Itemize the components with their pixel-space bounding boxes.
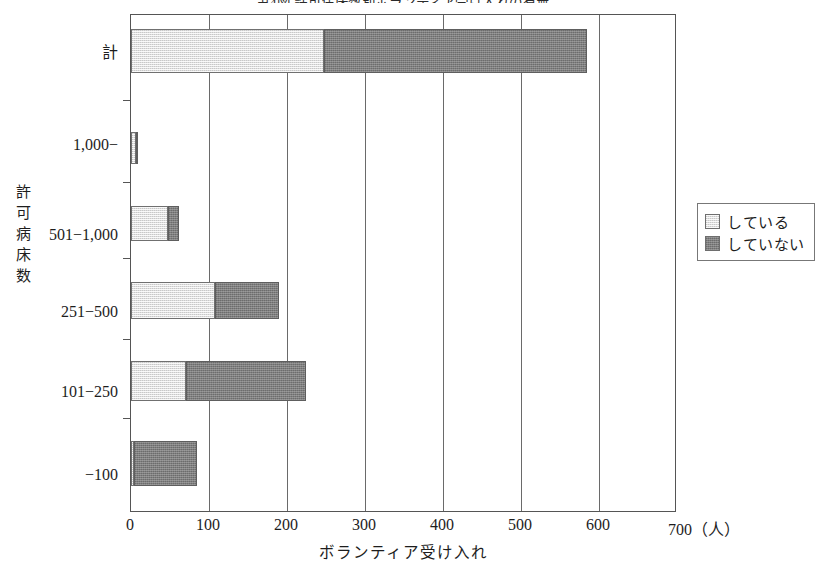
- gridline-500: [521, 15, 522, 511]
- x-axis-unit: 700（人）: [668, 516, 740, 540]
- bar-segment-shiteinai: [136, 132, 138, 164]
- gridline-300: [365, 15, 366, 511]
- y-axis-label: 1,000−: [0, 136, 124, 154]
- y-axis-label: −100: [0, 466, 124, 484]
- legend-item: していない: [705, 232, 805, 254]
- x-axis-tick-label: 300: [352, 516, 376, 534]
- bar-segment-shiteiru: [131, 206, 168, 241]
- bar-row: [131, 206, 677, 241]
- y-axis-label: 251−500: [0, 303, 124, 321]
- bar-row: [131, 361, 677, 401]
- bar-row: [131, 282, 677, 319]
- legend: しているしていない: [697, 203, 815, 261]
- x-axis-tick-label: 600: [586, 516, 610, 534]
- bar-chart: 第4図 許可病床数別ボランティア受け入れの有無 許可病床数 計1,000−501…: [0, 0, 827, 565]
- y-axis-title-char: 可: [12, 203, 34, 224]
- bar-segment-shiteinai: [134, 441, 197, 486]
- x-axis-tick-label: 500: [508, 516, 532, 534]
- dark-gray-swatch: [705, 236, 720, 251]
- bar-row: [131, 132, 677, 164]
- x-axis-title: ボランティア受け入れ: [130, 540, 676, 562]
- gridline-600: [599, 15, 600, 511]
- gridline-200: [287, 15, 288, 511]
- light-gray-swatch: [705, 214, 720, 229]
- y-axis-tick: [123, 339, 131, 340]
- legend-item: している: [705, 210, 805, 232]
- bar-segment-shiteinai: [186, 361, 306, 401]
- gridline-100: [209, 15, 210, 511]
- x-axis-tick-label: 0: [126, 516, 134, 534]
- y-axis-tick: [123, 418, 131, 419]
- bar-segment-shiteiru: [131, 282, 215, 319]
- bar-segment-shiteiru: [131, 29, 324, 73]
- bar-segment-shiteinai: [215, 282, 279, 319]
- legend-label: している: [727, 211, 789, 232]
- gridline-400: [443, 15, 444, 511]
- bar-segment-shiteinai: [324, 29, 587, 73]
- x-axis-tick-label: 100: [196, 516, 220, 534]
- y-axis-label: 計: [0, 39, 124, 63]
- x-axis-tick-label: 200: [274, 516, 298, 534]
- y-axis-tick: [123, 258, 131, 259]
- y-axis-title-char: 床: [12, 245, 34, 266]
- x-axis-tick-label: 400: [430, 516, 454, 534]
- bar-row: [131, 441, 677, 486]
- y-axis-title-char: 数: [12, 266, 34, 287]
- y-axis-title-char: 許: [12, 182, 34, 203]
- bar-segment-shiteiru: [131, 361, 186, 401]
- chart-title: 第4図 許可病床数別ボランティア受け入れの有無: [130, 0, 676, 3]
- y-axis-tick: [123, 182, 131, 183]
- legend-label: していない: [727, 233, 805, 254]
- bar-segment-shiteinai: [168, 206, 179, 241]
- y-axis-label: 101−250: [0, 383, 124, 401]
- plot-area: [130, 14, 676, 512]
- bar-row: [131, 29, 677, 73]
- y-axis-label: 501−1,000: [0, 226, 124, 244]
- y-axis-tick: [123, 100, 131, 101]
